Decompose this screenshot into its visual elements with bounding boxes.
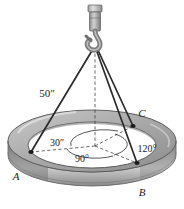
hook-shank (90, 12, 101, 31)
diagram-canvas: 50″ 30″ 90° 120° A B C (0, 0, 184, 209)
label-point-b: B (139, 186, 146, 198)
statics-figure: 50″ 30″ 90° 120° A B C (0, 0, 184, 209)
label-angle-ab: 90° (75, 153, 89, 164)
attachment-point-c (130, 124, 135, 128)
label-point-c: C (138, 107, 146, 119)
label-angle-bc: 120° (138, 143, 157, 154)
label-point-a: A (12, 170, 20, 182)
crane-hook (86, 5, 102, 50)
label-cable-length: 50″ (39, 87, 55, 99)
label-radius: 30″ (50, 137, 64, 148)
attachment-point-b (134, 161, 139, 165)
attachment-point-a (28, 150, 33, 154)
hook-swivel-nut (88, 5, 102, 12)
